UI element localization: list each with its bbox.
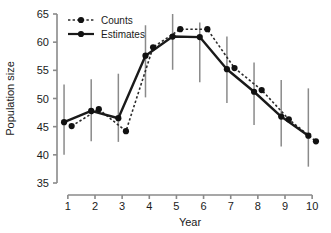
y-tick-label: 55: [37, 64, 49, 76]
estimates-data-point: [88, 108, 94, 114]
legend-label: Estimates: [101, 29, 145, 40]
x-tick-label: 3: [119, 200, 125, 212]
counts-data-point: [286, 116, 292, 122]
legend-marker-counts: [78, 17, 84, 23]
x-tick-label: 10: [306, 200, 318, 212]
legend-marker-estimates: [78, 31, 84, 37]
x-tick-label: 6: [201, 200, 207, 212]
counts-data-point: [231, 65, 237, 71]
x-tick-label: 1: [65, 200, 71, 212]
y-tick-label: 40: [37, 149, 49, 161]
estimates-data-point: [251, 89, 257, 95]
estimates-data-point: [61, 119, 67, 125]
estimates-data-point: [170, 33, 176, 39]
counts-data-point: [123, 128, 129, 134]
estimates-data-point: [305, 133, 311, 139]
chart-figure: 35404550556065 Population size 123456789…: [0, 0, 331, 233]
estimates-data-point: [224, 66, 230, 72]
y-tick-label: 35: [37, 177, 49, 189]
y-tick-label: 65: [37, 8, 49, 20]
estimates-data-point: [115, 115, 121, 121]
counts-data-point: [96, 106, 102, 112]
counts-data-point: [259, 87, 265, 93]
y-tick-label: 60: [37, 36, 49, 48]
y-tick-label: 45: [37, 121, 49, 133]
x-tick-label: 9: [282, 200, 288, 212]
x-axis-title: Year: [179, 216, 202, 228]
counts-data-point: [177, 26, 183, 32]
legend-label: Counts: [101, 15, 133, 26]
population-size-line-chart: 35404550556065 Population size 123456789…: [0, 0, 331, 233]
counts-data-point: [204, 26, 210, 32]
x-tick-label: 7: [228, 200, 234, 212]
y-tick-label: 50: [37, 93, 49, 105]
x-tick-label: 2: [92, 200, 98, 212]
counts-data-point: [150, 44, 156, 50]
counts-data-point: [69, 123, 75, 129]
estimates-data-point: [142, 53, 148, 59]
estimates-data-point: [197, 34, 203, 40]
estimates-data-point: [278, 113, 284, 119]
x-tick-label: 8: [255, 200, 261, 212]
x-tick-label: 4: [146, 200, 152, 212]
y-axis-title: Population size: [4, 61, 16, 136]
counts-data-point: [313, 138, 319, 144]
x-tick-label: 5: [173, 200, 179, 212]
